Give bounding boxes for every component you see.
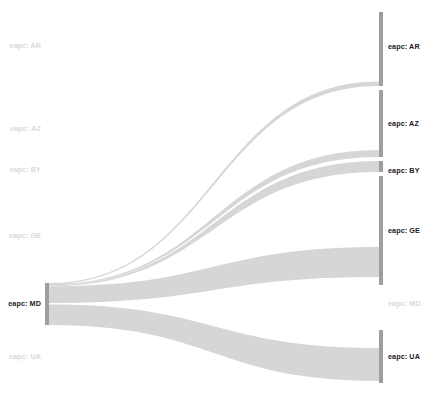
sankey-canvas: [0, 0, 427, 401]
sankey-links-group: [49, 82, 379, 382]
node-label-r-ge: eapc: GE: [388, 227, 420, 234]
node-label-l-ar: eapc: AR: [9, 42, 41, 49]
sankey-link[interactable]: [49, 305, 379, 382]
sankey-link[interactable]: [49, 247, 379, 303]
node-label-r-by: eapc: BY: [388, 167, 420, 174]
node-label-l-md: eapc: MD: [8, 300, 41, 307]
sankey-node-r-by[interactable]: [379, 161, 383, 172]
node-label-l-ge: eapc: GE: [9, 232, 41, 239]
node-label-r-ar: eapc: AR: [388, 43, 420, 50]
sankey-node-r-ua[interactable]: [379, 330, 383, 383]
node-label-l-by: eapc: BY: [9, 166, 41, 173]
node-label-r-az: eapc: AZ: [388, 120, 419, 127]
sankey-node-r-ar[interactable]: [379, 12, 383, 86]
sankey-node-r-ge[interactable]: [379, 176, 383, 285]
sankey-node-l-md[interactable]: [45, 283, 49, 325]
sankey-diagram: eapc: AReapc: AZeapc: BYeapc: GEeapc: MD…: [0, 0, 427, 401]
node-label-l-ua: eapc: UA: [9, 353, 41, 360]
node-label-r-ua: eapc: UA: [388, 353, 420, 360]
node-label-l-az: eapc: AZ: [10, 125, 41, 132]
sankey-node-r-az[interactable]: [379, 90, 383, 157]
node-label-r-md: eapc: MD: [388, 300, 421, 307]
